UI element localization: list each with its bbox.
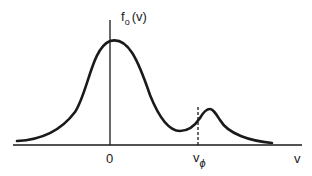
x-axis-label: v — [294, 151, 301, 166]
origin-tick-label: 0 — [106, 151, 113, 166]
distribution-figure: fo(v) 0 vϕ v — [0, 0, 312, 176]
distribution-curve — [17, 40, 272, 143]
y-axis-label: fo(v) — [121, 9, 147, 27]
vphi-tick-label: vϕ — [193, 150, 206, 169]
